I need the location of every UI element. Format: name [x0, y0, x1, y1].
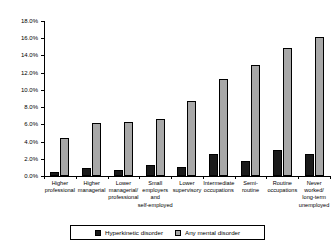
bar-group [235, 21, 267, 176]
y-tick-label: 0.0% [2, 173, 38, 179]
y-tick-label: 8.0% [2, 104, 38, 110]
bar [187, 101, 196, 176]
legend-swatch-icon [95, 230, 101, 236]
legend-item: Any mental disorder [175, 229, 240, 236]
x-tick-label: Higherprofessional [42, 180, 78, 194]
x-tick-label: Highermanagerial [74, 180, 110, 194]
bar-group [266, 21, 298, 176]
x-tick-label: Lowersupervisory [169, 180, 205, 194]
y-tick-label: 4.0% [2, 139, 38, 145]
bar-group [298, 21, 330, 176]
bar [283, 48, 292, 176]
bars-layer [44, 21, 330, 176]
bar [92, 123, 101, 176]
x-axis-line [44, 176, 330, 177]
bar-group [44, 21, 76, 176]
x-tick-label: Neverworked/long-termunemployed [296, 180, 332, 209]
x-tick-mark [171, 176, 172, 179]
y-tick-label: 18.0% [2, 18, 38, 24]
bar-group [139, 21, 171, 176]
bar [209, 154, 218, 176]
bar [146, 165, 155, 176]
bar [177, 167, 186, 176]
x-tick-mark [298, 176, 299, 179]
bar [219, 79, 228, 176]
x-tick-mark [330, 176, 331, 179]
x-tick-label: Routineoccupations [264, 180, 300, 194]
bar [82, 168, 91, 176]
y-tick-label: 14.0% [2, 52, 38, 58]
bar-group [108, 21, 140, 176]
x-tick-mark [139, 176, 140, 179]
x-tick-mark [203, 176, 204, 179]
x-tick-mark [266, 176, 267, 179]
bar [60, 138, 69, 176]
y-tick-label: 2.0% [2, 156, 38, 162]
legend-item-label: Hyperkinetic disorder [105, 229, 163, 236]
bar [156, 119, 165, 176]
y-tick-label: 10.0% [2, 87, 38, 93]
x-axis-labels: HigherprofessionalHighermanagerialLowerm… [44, 180, 330, 226]
bar [124, 122, 133, 176]
x-tick-label: Smallemployersandself-employed [137, 180, 173, 209]
bar [241, 161, 250, 176]
x-tick-mark [235, 176, 236, 179]
legend-swatch-icon [175, 230, 181, 236]
bar [305, 154, 314, 176]
x-tick-mark [76, 176, 77, 179]
legend-item-label: Any mental disorder [185, 229, 240, 236]
y-tick-label: 6.0% [2, 121, 38, 127]
bar-group [203, 21, 235, 176]
x-tick-label: Lowermanagerial/professional [106, 180, 142, 202]
x-tick-label: Intermediateoccupations [201, 180, 237, 194]
bar-chart: 0.0%2.0%4.0%6.0%8.0%10.0%12.0%14.0%16.0%… [0, 0, 333, 246]
bar [273, 150, 282, 176]
chart-legend: Hyperkinetic disorder Any mental disorde… [70, 225, 265, 240]
x-tick-mark [44, 176, 45, 179]
bar-group [171, 21, 203, 176]
x-tick-mark [108, 176, 109, 179]
legend-item: Hyperkinetic disorder [95, 229, 163, 236]
y-tick-label: 16.0% [2, 35, 38, 41]
bar [251, 65, 260, 176]
bar [315, 37, 324, 176]
y-tick-label: 12.0% [2, 70, 38, 76]
bar [50, 172, 59, 176]
x-tick-label: Semi-routine [233, 180, 269, 194]
bar-group [76, 21, 108, 176]
bar [114, 170, 123, 176]
